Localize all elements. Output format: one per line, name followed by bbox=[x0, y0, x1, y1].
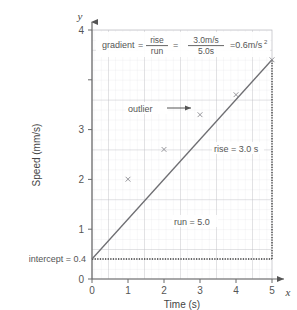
intercept-annotation: intercept = 0.4 bbox=[29, 254, 86, 264]
x-tick-label-5: 5 bbox=[269, 285, 275, 296]
plot-grid bbox=[92, 30, 272, 279]
y-tick-label-1: 1 bbox=[78, 224, 84, 235]
gradient-result: =0.6m/s bbox=[230, 40, 263, 50]
outlier-label: outlier bbox=[128, 104, 153, 114]
run-annotation: run = 5.0 bbox=[172, 215, 218, 227]
x-tick-label-2: 2 bbox=[161, 285, 167, 296]
x-axis-title: Time (s) bbox=[164, 299, 200, 310]
run-label: run = 5.0 bbox=[174, 217, 210, 227]
y-axis-title: Speed (mm/s) bbox=[31, 124, 42, 187]
gradient-equals-2: = bbox=[173, 40, 178, 50]
x-tick-label-0: 0 bbox=[89, 285, 95, 296]
x-axis-variable-name: x bbox=[285, 286, 291, 298]
gradient-word: gradient bbox=[102, 40, 135, 50]
rise-value: 3.0m/s bbox=[193, 35, 219, 45]
rise-annotation: rise = 3.0 s bbox=[212, 142, 264, 154]
y-axis-variable-name: y bbox=[77, 10, 83, 22]
rise-numerator-word: rise bbox=[150, 35, 164, 45]
speed-time-graph-figure: 0 1 2 3 4 0 1 2 3 4 5 y x Time (s) Speed… bbox=[0, 0, 297, 310]
gradient-formula-annotation: gradient = rise run = 3.0m/s 5.0s =0.6m/… bbox=[96, 32, 270, 57]
run-value: 5.0s bbox=[198, 46, 214, 56]
intercept-label: intercept = 0.4 bbox=[29, 254, 86, 264]
y-tick-label-4: 4 bbox=[78, 25, 84, 36]
y-tick-label-0: 0 bbox=[78, 274, 84, 285]
x-tick-label-4: 4 bbox=[233, 285, 239, 296]
rise-label: rise = 3.0 s bbox=[214, 144, 259, 154]
y-tick-label-3: 3 bbox=[78, 124, 84, 135]
run-denominator-word: run bbox=[151, 46, 164, 56]
x-tick-label-3: 3 bbox=[197, 285, 203, 296]
gradient-equals-1: = bbox=[138, 40, 143, 50]
x-tick-label-1: 1 bbox=[125, 285, 131, 296]
y-tick-label-2: 2 bbox=[78, 174, 84, 185]
